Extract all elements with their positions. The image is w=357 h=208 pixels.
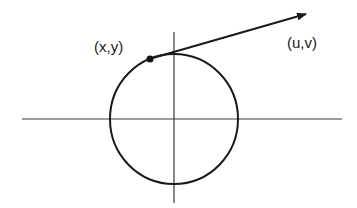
diagram-canvas: (x,y) (u,v) <box>0 0 357 208</box>
vector-label: (u,v) <box>287 34 317 51</box>
point-dot <box>147 56 154 63</box>
point-label: (x,y) <box>94 38 123 55</box>
